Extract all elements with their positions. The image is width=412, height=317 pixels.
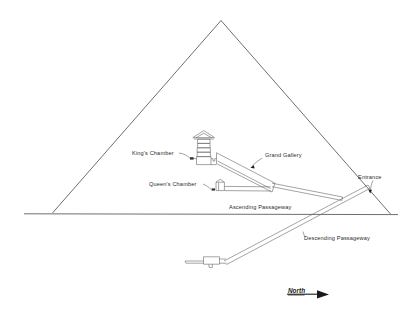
descending-passageway xyxy=(224,185,370,265)
ascending-passageway-label: Ascending Passageway xyxy=(229,204,291,210)
kings-chamber xyxy=(197,157,212,165)
gabled-roof xyxy=(193,131,215,139)
ground-line xyxy=(24,214,398,215)
diagram-canvas: King's Chamber Queen's Chamber Grand Gal… xyxy=(0,0,412,317)
entrance-label: Entrance xyxy=(358,174,382,180)
grand-gallery-leader-line xyxy=(250,158,262,168)
grand-gallery-label: Grand Gallery xyxy=(265,152,302,158)
queens-chamber xyxy=(216,179,224,190)
pyramid-cross-section-diagram: King's Chamber Queen's Chamber Grand Gal… xyxy=(0,0,412,317)
subterranean-chamber xyxy=(185,257,227,268)
descending-passageway-label: Descending Passageway xyxy=(304,235,370,241)
queens-chamber-complex xyxy=(216,179,271,191)
relieving-chambers xyxy=(197,139,210,156)
ascending-passageway xyxy=(272,183,343,200)
kings-chamber-label: King's Chamber xyxy=(132,150,174,156)
queens-chamber-leader-line xyxy=(203,184,215,191)
horizontal-passage xyxy=(224,186,271,191)
kings-chamber-complex xyxy=(193,131,217,165)
antechamber-steps xyxy=(211,159,217,165)
kings-chamber-leader-line xyxy=(179,153,194,160)
compass-north-label: North xyxy=(288,287,305,294)
queens-chamber-label: Queen's Chamber xyxy=(149,181,196,187)
